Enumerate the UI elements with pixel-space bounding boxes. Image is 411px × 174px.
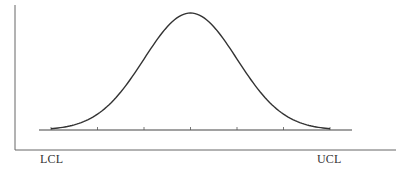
control-chart (0, 0, 411, 174)
ucl-label: UCL (317, 152, 342, 167)
bell-curve (51, 13, 330, 129)
lcl-label: LCL (40, 152, 63, 167)
